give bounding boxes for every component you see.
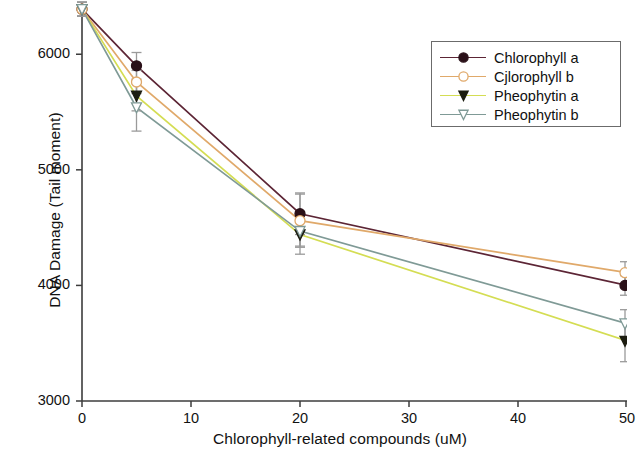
x-tick-label: 40 [498,410,538,426]
legend-symbol [440,108,486,122]
y-tick-label: 6000 [10,45,70,61]
x-tick-label: 0 [62,410,102,426]
legend-label: Pheophytin a [494,88,579,104]
data-marker [132,77,142,87]
legend-label: Cjlorophyll b [494,69,574,85]
open-circle-icon [457,70,470,83]
y-axis-title: DNA Damage (Tail moment) [46,79,64,341]
legend-symbol [440,89,486,103]
data-marker [132,61,142,71]
x-axis-title: Chlorophyll-related compounds (uM) [120,430,560,448]
data-marker [459,71,468,80]
filled-triangle-down-icon [457,89,470,102]
legend-label: Pheophytin b [494,107,579,123]
data-marker [620,268,627,278]
legend-label: Chlorophyll a [494,50,579,66]
x-tick-label: 20 [280,410,320,426]
legend-item[interactable]: Chlorophyll a [440,48,579,67]
x-tick-label: 10 [171,410,211,426]
x-tick-label: 30 [389,410,429,426]
x-tick-label: 50 [607,410,640,426]
open-triangle-down-icon [457,108,470,121]
data-marker [620,319,627,329]
data-marker [620,336,627,346]
y-tick-label: 3000 [10,392,70,408]
legend-symbol [440,51,486,65]
chart-legend: Chlorophyll aCjlorophyll bPheophytin aPh… [431,41,621,127]
data-marker [620,280,627,290]
legend-symbol [440,70,486,84]
data-marker [459,110,468,119]
data-marker [459,52,468,61]
filled-circle-icon [457,51,470,64]
legend-item[interactable]: Pheophytin b [440,105,579,124]
legend-item[interactable]: Pheophytin a [440,86,579,105]
legend-item[interactable]: Cjlorophyll b [440,67,574,86]
data-marker [295,216,305,226]
data-marker [459,91,468,100]
